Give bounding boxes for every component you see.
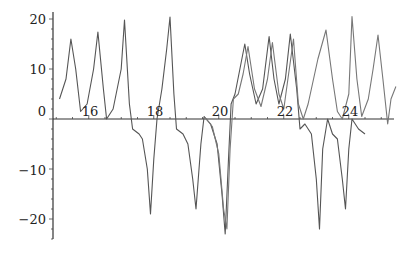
line-series-1	[60, 17, 366, 234]
y-tick-label-0: 0	[38, 104, 46, 119]
y-tick-label-20: 20	[29, 12, 46, 27]
x-tick-label-18: 18	[147, 104, 164, 119]
x-tick-label-22: 22	[277, 104, 294, 119]
line-chart: 20 10 0 −10 −20 16 18 20 22 24	[0, 0, 413, 256]
y-axis	[49, 12, 53, 239]
series-layer	[60, 17, 396, 235]
y-tick-label-neg20: −20	[19, 212, 46, 227]
x-tick-label-24: 24	[342, 104, 359, 119]
y-tick-label-10: 10	[29, 62, 46, 77]
x-tick-label-20: 20	[212, 104, 229, 119]
x-tick-label-16: 16	[82, 104, 99, 119]
y-tick-label-neg10: −10	[19, 163, 46, 178]
